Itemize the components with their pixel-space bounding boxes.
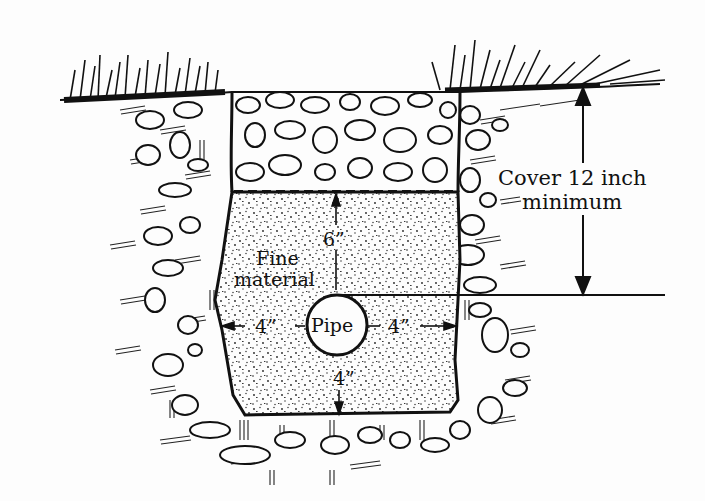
pipe-label: Pipe bbox=[311, 316, 353, 335]
dim-label-right: 4” bbox=[388, 317, 410, 336]
grass-right-icon bbox=[432, 40, 665, 90]
trench-diagram: Cover 12 inch minimum Fine material Pipe… bbox=[0, 0, 705, 501]
fine-material-label-line2: material bbox=[234, 270, 315, 289]
cover-label-line1: Cover 12 inch bbox=[498, 168, 647, 189]
fine-material-label-line1: Fine bbox=[256, 249, 299, 268]
trench-illustration bbox=[0, 0, 705, 501]
cover-label-line2: minimum bbox=[522, 192, 622, 213]
dim-label-left: 4” bbox=[255, 317, 277, 336]
trench-wall-left bbox=[231, 92, 232, 192]
dim-label-bottom: 4” bbox=[333, 369, 355, 388]
dim-label-top: 6” bbox=[323, 230, 345, 249]
grass-left-icon bbox=[64, 52, 225, 100]
